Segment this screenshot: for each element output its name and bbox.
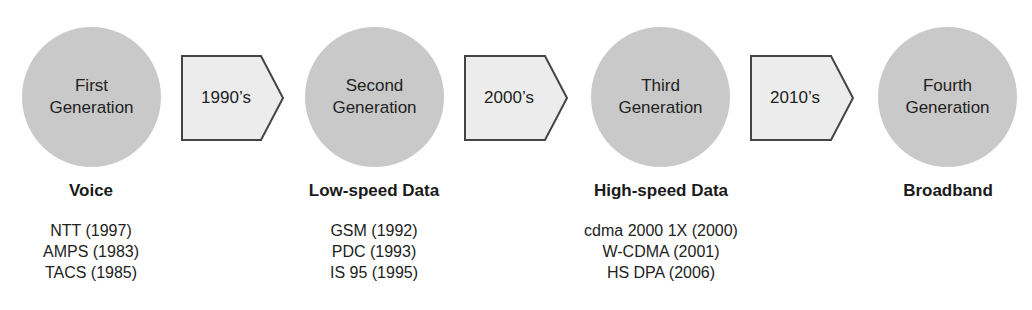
era-label: 2010’s (750, 55, 840, 141)
generation-name-line2: Generation (49, 97, 133, 119)
generation-circle-first: First Generation (22, 27, 161, 167)
generation-info-second: Low-speed Data GSM (1992) PDC (1993) IS … (274, 180, 474, 283)
generation-name-line1: Second (346, 75, 404, 97)
era-arrow-2010s: 2010’s (750, 55, 854, 141)
generation-heading: Low-speed Data (274, 180, 474, 202)
generation-heading: Voice (0, 180, 191, 202)
generation-info-first: Voice NTT (1997) AMPS (1983) TACS (1985) (0, 180, 191, 283)
generation-heading: High-speed Data (561, 180, 761, 202)
generation-heading: Broadband (848, 180, 1032, 202)
generation-name-line2: Generation (618, 97, 702, 119)
generation-circle-third: Third Generation (591, 27, 730, 167)
technology-item: HS DPA (2006) (561, 262, 761, 283)
era-arrow-1990s: 1990’s (181, 55, 285, 141)
generation-circle-fourth: Fourth Generation (878, 27, 1017, 167)
technology-item: cdma 2000 1X (2000) (561, 220, 761, 241)
technology-item: W-CDMA (2001) (561, 241, 761, 262)
generation-info-third: High-speed Data cdma 2000 1X (2000) W-CD… (561, 180, 761, 283)
technology-item: AMPS (1983) (0, 241, 191, 262)
era-label: 1990’s (181, 55, 271, 141)
generation-name-line2: Generation (905, 97, 989, 119)
generation-info-fourth: Broadband (848, 180, 1032, 220)
technology-item: GSM (1992) (274, 220, 474, 241)
technology-item: NTT (1997) (0, 220, 191, 241)
generation-name-line1: Fourth (923, 75, 972, 97)
technology-item: TACS (1985) (0, 262, 191, 283)
generation-circle-second: Second Generation (305, 27, 444, 167)
technology-item: IS 95 (1995) (274, 262, 474, 283)
era-label: 2000’s (464, 55, 554, 141)
era-arrow-2000s: 2000’s (464, 55, 568, 141)
generation-name-line2: Generation (332, 97, 416, 119)
technology-item: PDC (1993) (274, 241, 474, 262)
generation-name-line1: First (75, 75, 108, 97)
generation-name-line1: Third (641, 75, 680, 97)
